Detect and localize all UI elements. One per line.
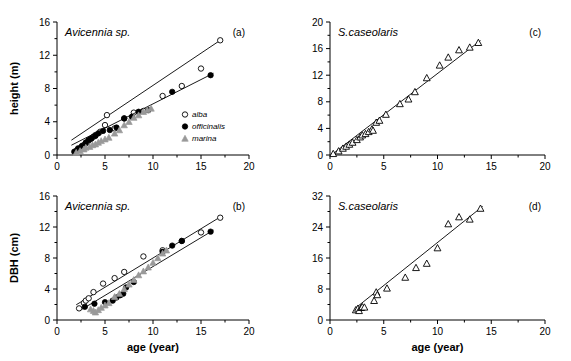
- figure-svg: 048121605101520Avicennia sp.(a)048121605…: [0, 0, 571, 361]
- y-ticklabel-c: 20: [312, 17, 324, 28]
- x-ticklabel-b: 20: [243, 326, 255, 337]
- x-ticklabel-b: 15: [195, 326, 207, 337]
- panel-title-b: Avicennia sp.: [64, 200, 130, 212]
- x-ticklabel-a: 0: [54, 161, 60, 172]
- y-ticklabel-a: 12: [39, 50, 51, 61]
- y-ticklabel-b: 16: [39, 191, 51, 202]
- legend: albaofficinalismarina: [182, 110, 225, 143]
- panel-label-d: (d): [529, 201, 541, 212]
- legend-marker-marina: [182, 135, 188, 141]
- y-ticklabel-d: 16: [312, 253, 324, 264]
- legend-label-alba: alba: [192, 110, 208, 119]
- panel-label-c: (c): [529, 27, 541, 38]
- x-ticklabel-c: 5: [381, 161, 387, 172]
- datapoint-S.caseolaris: [423, 260, 430, 266]
- legend-marker-alba: [182, 112, 187, 117]
- panel-d: 0816243205101520S.caseolaris(d): [312, 191, 551, 338]
- datapoint-alba: [76, 306, 81, 311]
- datapoint-S.caseolaris: [456, 47, 463, 53]
- x-ticklabel-b: 0: [54, 326, 60, 337]
- x-ticklabel-c: 20: [539, 161, 551, 172]
- datapoint-marina: [106, 134, 112, 140]
- y-ticklabel-a: 4: [44, 116, 50, 127]
- datapoint-S.caseolaris: [384, 285, 391, 291]
- panel-b: 048121605101520Avicennia sp.(b): [39, 191, 255, 338]
- y-ticklabel-d: 32: [312, 191, 324, 202]
- x-ticklabel-d: 20: [539, 326, 551, 337]
- y-ticklabel-a: 0: [44, 150, 50, 161]
- panel-title-c: S.caseolaris: [338, 26, 398, 38]
- panel-label-b: (b): [233, 201, 245, 212]
- datapoint-alba: [218, 215, 223, 220]
- datapoint-officinalis: [107, 127, 112, 132]
- datapoint-officinalis: [122, 116, 127, 121]
- y-ticklabel-c: 8: [317, 96, 323, 107]
- datapoint-S.caseolaris: [445, 54, 452, 60]
- y-ticklabel-d: 0: [317, 315, 323, 326]
- x-ticklabel-d: 5: [381, 326, 387, 337]
- datapoint-officinalis: [179, 238, 184, 243]
- x-ticklabel-b: 10: [147, 326, 159, 337]
- panel-label-a: (a): [233, 27, 245, 38]
- y-ticklabel-c: 0: [317, 150, 323, 161]
- y-ticklabel-a: 8: [44, 83, 50, 94]
- x-ticklabel-c: 0: [327, 161, 333, 172]
- x-ticklabel-d: 15: [486, 326, 498, 337]
- datapoint-alba: [198, 66, 203, 71]
- legend-label-marina: marina: [192, 134, 217, 143]
- y-ticklabel-a: 16: [39, 17, 51, 28]
- datapoint-S.caseolaris: [383, 111, 390, 117]
- x-ticklabel-d: 10: [432, 326, 444, 337]
- datapoint-S.caseolaris: [423, 74, 430, 80]
- panel-a: 048121605101520Avicennia sp.(a): [39, 17, 255, 173]
- datapoint-S.caseolaris: [413, 264, 420, 270]
- datapoint-S.caseolaris: [434, 245, 441, 251]
- x-ticklabel-d: 0: [327, 326, 333, 337]
- legend-label-officinalis: officinalis: [192, 122, 225, 131]
- datapoint-S.caseolaris: [371, 297, 378, 303]
- datapoint-alba: [218, 38, 223, 43]
- datapoint-S.caseolaris: [436, 62, 443, 68]
- datapoint-alba: [198, 230, 203, 235]
- y-ticklabel-b: 0: [44, 315, 50, 326]
- y-ticklabel-b: 4: [44, 284, 50, 295]
- y-axis-title-dbh: DBH (cm): [8, 233, 20, 283]
- x-ticklabel-a: 5: [102, 161, 108, 172]
- x-axis-title-left: age (year): [127, 341, 179, 353]
- datapoint-officinalis: [92, 301, 97, 306]
- y-ticklabel-d: 8: [317, 284, 323, 295]
- y-ticklabel-b: 12: [39, 222, 51, 233]
- legend-marker-officinalis: [182, 124, 187, 129]
- datapoint-officinalis: [208, 229, 213, 234]
- y-ticklabel-b: 8: [44, 253, 50, 264]
- x-ticklabel-b: 5: [102, 326, 108, 337]
- datapoint-S.caseolaris: [405, 96, 412, 102]
- datapoint-officinalis: [100, 128, 105, 133]
- datapoint-S.caseolaris: [475, 39, 482, 45]
- x-ticklabel-a: 15: [195, 161, 207, 172]
- x-ticklabel-c: 15: [486, 161, 498, 172]
- fit-line-alba: [76, 216, 222, 305]
- datapoint-alba: [104, 112, 109, 117]
- datapoint-S.caseolaris: [402, 274, 409, 280]
- datapoint-officinalis: [82, 304, 87, 309]
- datapoint-officinalis: [170, 243, 175, 248]
- datapoint-alba: [86, 296, 91, 301]
- y-ticklabel-c: 4: [317, 123, 323, 134]
- panel-c: 04812162005101520S.caseolaris(c): [312, 17, 551, 173]
- datapoint-S.caseolaris: [456, 214, 463, 220]
- panel-title-a: Avicennia sp.: [64, 26, 130, 38]
- datapoint-alba: [141, 254, 146, 259]
- fit-line-S.caseolaris: [332, 41, 480, 155]
- datapoint-alba: [100, 281, 105, 286]
- y-ticklabel-d: 24: [312, 222, 324, 233]
- datapoint-S.caseolaris: [477, 205, 484, 211]
- figure-container: 048121605101520Avicennia sp.(a)048121605…: [0, 0, 571, 361]
- datapoint-officinalis: [170, 89, 175, 94]
- panel-title-d: S.caseolaris: [338, 200, 398, 212]
- datapoint-alba: [122, 269, 127, 274]
- datapoint-officinalis: [208, 73, 213, 78]
- x-ticklabel-a: 10: [147, 161, 159, 172]
- datapoint-alba: [112, 275, 117, 280]
- datapoint-alba: [91, 289, 96, 294]
